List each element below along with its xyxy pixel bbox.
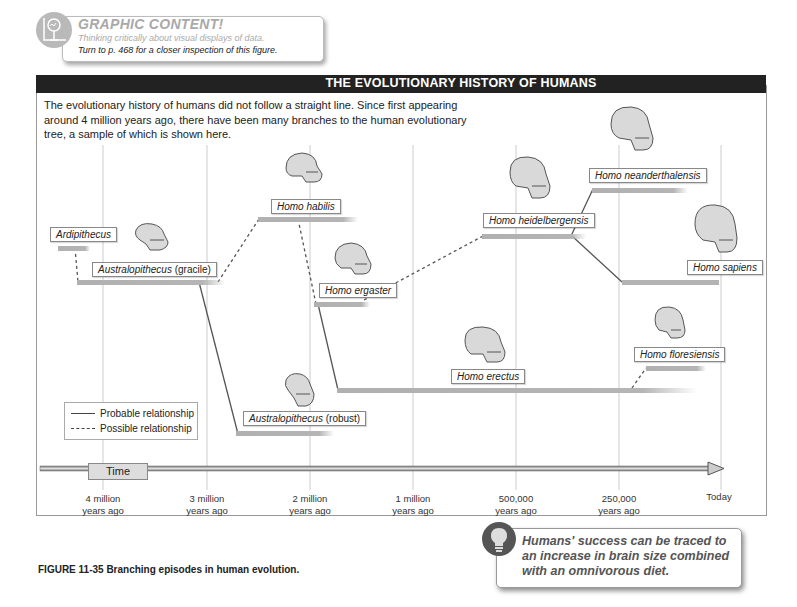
bar-australopithecus-gracile [77, 280, 225, 285]
label-australopithecus-gracile: Australopithecus (gracile) [92, 262, 217, 277]
label-homo-erectus: Homo erectus [451, 369, 525, 384]
connector-gracile-robust [199, 282, 238, 434]
legend-label-possible: Possible relationship [100, 423, 192, 434]
bar-homo-neanderthalensis [592, 188, 688, 193]
dashed-line-swatch [71, 428, 95, 429]
figure-number: FIGURE 11-35 [38, 564, 104, 575]
connector-ardipithecus-gracile [75, 248, 78, 282]
bar-homo-sapiens [622, 280, 719, 285]
label-ardipithecus: Ardipithecus [50, 227, 117, 242]
skull-icon-homo-erectus [465, 327, 505, 362]
bar-homo-habilis [258, 217, 358, 222]
time-tick-today: Today [684, 491, 754, 503]
skull-icon-homo-ergaster [335, 243, 371, 274]
time-tick-3-million: 3 millionyears ago [172, 493, 242, 517]
label-homo-habilis: Homo habilis [271, 199, 341, 214]
time-tick-250000: 250,000years ago [584, 493, 654, 517]
connector-habilis-ergaster [298, 219, 316, 304]
time-tick-1-million: 1 millionyears ago [378, 493, 448, 517]
skull-icon-homo-floresiensis [655, 307, 685, 338]
figure-caption: FIGURE 11-35 Branching episodes in human… [38, 564, 299, 575]
connector-ergaster-erectus [318, 304, 338, 390]
bar-australopithecus-robust [236, 431, 334, 436]
legend-item-possible: Possible relationship [71, 423, 192, 434]
label-homo-floresiensis: Homo floresiensis [634, 347, 725, 362]
time-axis-label: Time [88, 463, 148, 480]
solid-line-swatch [71, 413, 95, 414]
connector-erectus-floresiensis [632, 368, 646, 388]
label-homo-neanderthalensis: Homo neanderthalensis [589, 168, 707, 183]
bar-homo-erectus [337, 388, 697, 393]
time-arrow-head [708, 462, 724, 475]
tip-text: Humans' success can be traced to an incr… [522, 534, 740, 579]
time-tick-2-million: 2 millionyears ago [275, 493, 345, 517]
bar-homo-heidelbergensis [482, 234, 586, 239]
skull-icon-homo-neanderthalensis [611, 107, 653, 150]
bar-homo-floresiensis [646, 366, 706, 371]
skull-icon-homo-habilis [286, 153, 322, 182]
label-homo-heidelbergensis: Homo heidelbergensis [483, 213, 595, 228]
bar-ardipithecus [58, 246, 90, 251]
lightbulb-icon [482, 522, 516, 556]
connector-heidelbergensis-sapiens [572, 236, 622, 282]
bar-homo-ergaster [314, 302, 370, 307]
time-tick-500000: 500,000years ago [481, 493, 551, 517]
legend-item-probable: Probable relationship [71, 408, 194, 419]
connector-gracile-habilis [218, 219, 259, 282]
legend: Probable relationship Possible relations… [64, 402, 198, 440]
label-homo-sapiens: Homo sapiens [687, 260, 763, 275]
label-homo-ergaster: Homo ergaster [319, 283, 397, 298]
figure-caption-text: Branching episodes in human evolution. [106, 564, 299, 575]
label-australopithecus-robust: Australopithecus (robust) [243, 411, 366, 426]
legend-label-probable: Probable relationship [100, 408, 194, 419]
time-tick-4-million: 4 millionyears ago [68, 493, 138, 517]
skull-icon-homo-sapiens [695, 205, 737, 252]
skull-icon-australopithecus-gracile [136, 224, 169, 250]
